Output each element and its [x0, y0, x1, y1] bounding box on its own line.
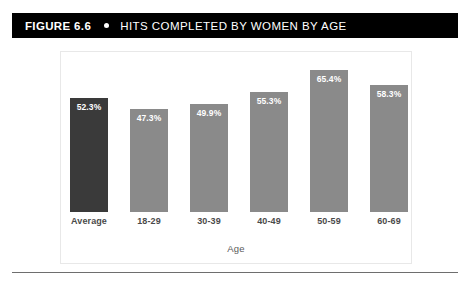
bar-value-label: 47.3% [137, 114, 162, 123]
bullet-dot-icon [104, 23, 109, 28]
category-label-40-49: 40-49 [250, 216, 288, 226]
bar-chart-bars: 52.3% 47.3% 49.9% 55.3% 65.4% 58.3% [70, 60, 408, 212]
bar-value-label: 58.3% [377, 90, 402, 99]
x-axis-title: Age [60, 243, 412, 254]
category-axis-labels: Average 18-29 30-39 40-49 50-59 60-69 [70, 216, 408, 226]
category-label-60-69: 60-69 [370, 216, 408, 226]
bar-40-49: 55.3% [250, 92, 288, 212]
bar-column: 52.3% [70, 60, 108, 212]
bar-value-label: 49.9% [197, 109, 222, 118]
figure-container: FIGURE 6.6 HITS COMPLETED BY WOMEN BY AG… [0, 0, 472, 286]
category-label-50-59: 50-59 [310, 216, 348, 226]
figure-title-text: HITS COMPLETED BY WOMEN BY AGE [120, 20, 347, 32]
bar-value-label: 55.3% [257, 97, 282, 106]
bar-18-29: 47.3% [130, 109, 168, 212]
bar-column: 58.3% [370, 60, 408, 212]
category-label-18-29: 18-29 [130, 216, 168, 226]
bar-column: 49.9% [190, 60, 228, 212]
category-label-average: Average [70, 216, 108, 226]
bar-average: 52.3% [70, 98, 108, 212]
bar-column: 65.4% [310, 60, 348, 212]
bottom-divider [12, 272, 458, 273]
bar-column: 55.3% [250, 60, 288, 212]
bar-60-69: 58.3% [370, 85, 408, 212]
category-label-30-39: 30-39 [190, 216, 228, 226]
bar-value-label: 65.4% [317, 75, 342, 84]
bar-50-59: 65.4% [310, 70, 348, 212]
bar-column: 47.3% [130, 60, 168, 212]
bar-30-39: 49.9% [190, 104, 228, 212]
bar-value-label: 52.3% [77, 103, 102, 112]
figure-title-bar: FIGURE 6.6 HITS COMPLETED BY WOMEN BY AG… [12, 13, 458, 38]
figure-number-label: FIGURE 6.6 [25, 20, 91, 32]
